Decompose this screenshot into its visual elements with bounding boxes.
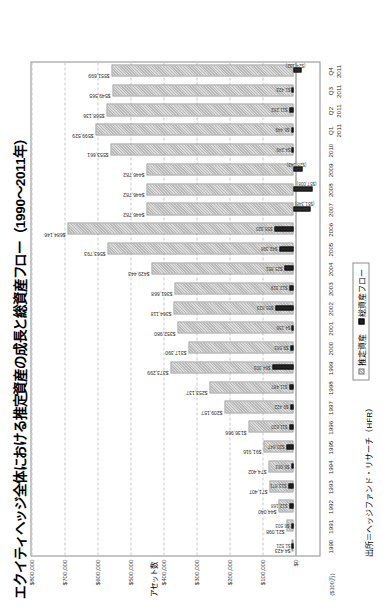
bar-estimated-assets xyxy=(111,64,293,76)
bar-total-asset-flow xyxy=(291,87,293,92)
bar-group: $429,443$25,851 xyxy=(31,258,319,278)
x-axis-tick-label: 1995 xyxy=(326,437,334,457)
bar-group: $373,299$64,303 xyxy=(31,357,319,377)
bar-label-estimated-assets: $136,966 xyxy=(225,429,246,435)
x-axis-tick-label: 2009 xyxy=(326,160,334,180)
bar-estimated-assets xyxy=(110,143,293,155)
bar-label-estimated-assets: $209,157 xyxy=(201,409,222,415)
bar-group: $21,098$6,503 xyxy=(31,515,319,535)
bar-label-total-asset-flow: $20,847 xyxy=(268,443,285,448)
y-axis-tick-label: $200,000 xyxy=(226,559,233,585)
bar-label-total-asset-flow: $13,871 xyxy=(270,482,287,487)
x-axis-tick-label: 1998 xyxy=(326,378,334,398)
legend-item-flow: 総資産フロー xyxy=(355,268,366,325)
bar-label-total-asset-flow: $6,063 xyxy=(275,463,289,468)
bar-total-asset-flow xyxy=(289,503,293,508)
bar-label-estimated-assets: $563,793 xyxy=(84,251,105,257)
bar-total-asset-flow xyxy=(289,424,293,429)
bar-group: $551,699($24,132) xyxy=(31,60,319,80)
bar-label-estimated-assets: $352,980 xyxy=(153,330,174,336)
y-axis-tick-label: $500,000 xyxy=(127,559,134,585)
x-axis-tick-label: 2008 xyxy=(326,180,334,200)
y-axis-tick-label: $800,000 xyxy=(28,559,35,585)
bar-group: $74,402$6,063 xyxy=(31,456,319,476)
bar-group: $364,118$55,823 xyxy=(31,298,319,318)
bar-group: $91,916$20,847 xyxy=(31,436,319,456)
bar-total-asset-flow xyxy=(274,226,293,231)
bar-label-total-asset-flow: $12,319 xyxy=(270,284,287,289)
bar-label-estimated-assets: $684,146 xyxy=(44,231,65,237)
x-axis-tick-label: 1994 xyxy=(326,457,334,477)
y-axis-tick-label: $400,000 xyxy=(160,559,167,585)
bar-label-total-asset-flow: $58,320 xyxy=(255,225,272,230)
bar-label-total-asset-flow: $4,249 xyxy=(276,146,290,151)
bar-label-total-asset-flow: ($28,143) xyxy=(287,161,307,166)
bar-group: $446,782($57,008) xyxy=(31,179,319,199)
bar-group: $553,661$4,249 xyxy=(31,139,319,159)
bar-series-layer: $4,423$1,521$21,098$6,503$44,040$12,168$… xyxy=(31,62,319,555)
bar-label-total-asset-flow: $42,398 xyxy=(260,245,277,250)
bar-label-total-asset-flow: $11,820 xyxy=(271,423,287,428)
bar-group: $568,136$11,262 xyxy=(31,100,319,120)
bar-total-asset-flow xyxy=(272,364,293,369)
bar-total-asset-flow xyxy=(279,246,293,251)
bar-label-total-asset-flow: $11,487 xyxy=(271,383,287,388)
bar-estimated-assets xyxy=(146,183,293,195)
bar-group: $446,782($28,143) xyxy=(31,159,319,179)
bar-total-asset-flow xyxy=(289,384,293,389)
legend-swatch-flow-icon xyxy=(358,319,364,325)
bar-label-total-asset-flow: $12,168 xyxy=(270,502,287,507)
bar-label-total-asset-flow: $6,449 xyxy=(275,126,289,131)
bar-total-asset-flow xyxy=(286,444,293,449)
y-axis-caption: アセット数 xyxy=(150,558,159,600)
bar-total-asset-flow xyxy=(293,186,312,191)
x-axis-tick-label: 2002 xyxy=(326,299,334,319)
bar-label-estimated-assets: $71,407 xyxy=(249,488,267,494)
chart-title: エクイティヘッジ全体における推定資産の成長と総資産フロー（1990～2011年） xyxy=(8,132,28,598)
bar-total-asset-flow xyxy=(290,404,293,409)
bar-estimated-assets xyxy=(95,123,293,135)
y-axis-tick-label: $100,000 xyxy=(259,559,266,585)
bar-label-total-asset-flow: $1,521 xyxy=(276,542,290,547)
x-axis-tick-label: Q12011 xyxy=(326,120,342,140)
x-axis-tick-label: 1991 xyxy=(326,516,334,536)
bar-label-estimated-assets: $553,661 xyxy=(87,152,108,158)
bar-label-estimated-assets: $317,390 xyxy=(165,350,186,356)
bar-label-estimated-assets: $549,565 xyxy=(88,92,109,98)
bar-estimated-assets xyxy=(146,202,293,214)
x-axis-tick-label: 2007 xyxy=(326,200,334,220)
bar-total-asset-flow xyxy=(275,305,293,310)
bar-label-estimated-assets: $599,529 xyxy=(72,132,93,138)
bar-total-asset-flow xyxy=(293,166,302,171)
x-axis-tick-label: 2010 xyxy=(326,140,334,160)
legend-item-assets: 推定資産 xyxy=(355,334,366,375)
x-axis-tick-label: 2000 xyxy=(326,338,334,358)
bar-total-asset-flow xyxy=(293,67,301,72)
x-axis-tick-label: 2006 xyxy=(326,219,334,239)
bar-label-total-asset-flow: $64,303 xyxy=(253,364,270,369)
bar-total-asset-flow xyxy=(284,265,293,270)
x-axis-tick-label: 2004 xyxy=(326,259,334,279)
screenshot-canvas: エクイティヘッジ全体における推定資産の成長と総資産フロー（1990～2011年）… xyxy=(0,0,383,612)
x-axis-tick-label: 1999 xyxy=(326,358,334,378)
bar-group: $446,782($51,348) xyxy=(31,199,319,219)
legend-label-flow: 総資産フロー xyxy=(355,268,366,316)
bar-label-total-asset-flow: $55,823 xyxy=(256,304,273,309)
bar-total-asset-flow xyxy=(293,206,310,211)
bar-label-estimated-assets: $74,402 xyxy=(248,468,266,474)
bar-total-asset-flow xyxy=(291,463,293,468)
bar-label-total-asset-flow: $1,423 xyxy=(276,86,290,91)
bar-label-estimated-assets: $568,136 xyxy=(82,112,103,118)
bar-total-asset-flow xyxy=(289,107,293,112)
bar-group: $4,423$1,521 xyxy=(31,535,319,555)
bar-total-asset-flow xyxy=(289,285,293,290)
bar-label-total-asset-flow: $11,262 xyxy=(271,106,287,111)
y-axis-tick-label: $300,000 xyxy=(193,559,200,585)
bar-group: $136,966$11,820 xyxy=(31,416,319,436)
x-axis-tick-label: 1996 xyxy=(326,417,334,437)
chart-legend: 推定資産 総資産フロー xyxy=(352,262,369,380)
bar-label-total-asset-flow: $25,851 xyxy=(266,265,283,270)
bar-group: $599,529$6,449 xyxy=(31,119,319,139)
bar-label-estimated-assets: $4,423 xyxy=(274,548,290,554)
bar-group: $317,390$9,583 xyxy=(31,337,319,357)
